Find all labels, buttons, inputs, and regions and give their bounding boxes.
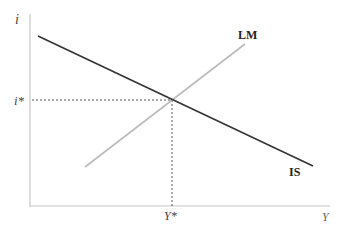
lm-curve [85, 44, 245, 167]
is-lm-diagram: i Y i* Y* LM IS [0, 0, 342, 235]
equilibrium-output-label: Y* [164, 209, 177, 223]
y-axis-label: i [15, 12, 19, 27]
equilibrium-rate-label: i* [14, 93, 25, 108]
is-label: IS [289, 165, 301, 179]
lm-label: LM [238, 28, 257, 42]
x-axis-label: Y [322, 210, 330, 224]
is-curve [38, 36, 313, 166]
